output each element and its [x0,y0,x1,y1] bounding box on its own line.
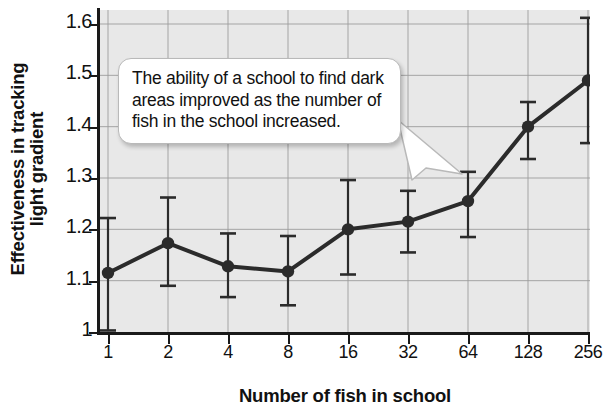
y-axis-tick-mark [89,127,98,129]
y-axis-tick-label: 1.5 [46,61,92,84]
x-axis-tick-label: 256 [558,342,607,363]
callout-annotation: The ability of a school to find dark are… [118,58,401,144]
x-axis-tick-label: 2 [138,342,198,363]
x-axis-line [97,332,590,335]
y-axis-tick-label: 1.4 [46,113,92,136]
x-axis-tick-mark [408,335,410,344]
x-axis-tick-mark [168,335,170,344]
data-point-marker [402,215,414,227]
x-axis-tick-label: 16 [318,342,378,363]
y-axis-title-line-1: Effectiveness in tracking [8,63,27,276]
x-axis-tick-label: 64 [438,342,498,363]
y-axis-tick-label: 1.6 [46,10,92,33]
data-point-marker [462,195,474,207]
x-axis-tick-mark [348,335,350,344]
y-axis-tick-mark [89,178,98,180]
data-point-marker [282,265,294,277]
y-axis-tick-mark [89,24,98,26]
x-axis-tick-mark [228,335,230,344]
data-point-marker [102,267,114,279]
x-axis-tick-mark [588,335,590,344]
x-axis-tick-mark [528,335,530,344]
y-axis-tick-label: 1.2 [46,215,92,238]
x-axis-tick-label: 1 [78,342,138,363]
callout-tail-icon [396,118,506,188]
y-axis-tick-label: 1.1 [46,267,92,290]
x-axis-tick-label: 4 [198,342,258,363]
y-axis-tick-mark [89,332,98,334]
y-axis-tick-mark [89,229,98,231]
x-axis-title: Number of fish in school [100,385,590,407]
x-axis-tick-mark [468,335,470,344]
x-axis-tick-label: 32 [378,342,438,363]
data-point-marker [342,223,354,235]
y-axis-tick-label: 1.3 [46,164,92,187]
y-axis-tick-label: 1 [46,318,92,341]
x-axis-tick-label: 128 [498,342,558,363]
data-point-marker [222,260,234,272]
x-axis-tick-label: 8 [258,342,318,363]
x-axis-tick-mark [288,335,290,344]
y-axis-tick-labels: 1.61.51.41.31.21.11 [42,0,92,360]
x-axis-tick-mark [108,335,110,344]
data-point-marker [522,120,534,132]
callout-text: The ability of a school to find dark are… [132,68,387,133]
y-axis-tick-mark [89,75,98,77]
y-axis-line [97,8,100,334]
data-point-marker [162,237,174,249]
y-axis-tick-mark [89,281,98,283]
